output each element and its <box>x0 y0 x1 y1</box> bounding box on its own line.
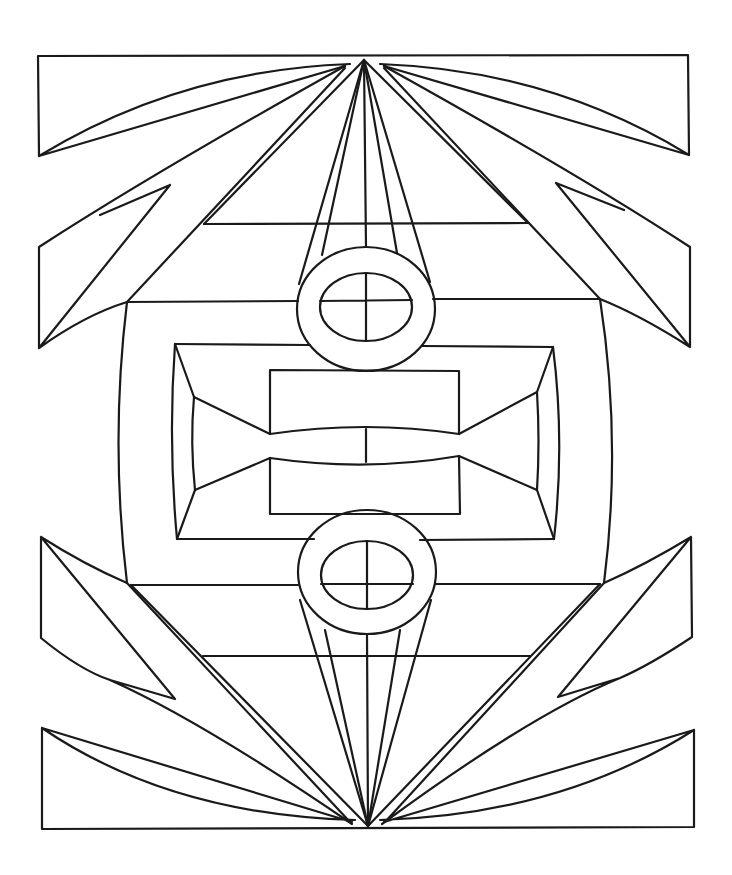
inner-rect-bottom <box>270 456 460 514</box>
frame-bottom <box>177 539 554 540</box>
bottom-ray-center <box>367 634 368 826</box>
top-left-petal <box>39 64 350 156</box>
line-art-canvas <box>0 0 732 875</box>
bowtie-right <box>459 392 537 490</box>
frame-top <box>175 344 553 347</box>
top-right-petal <box>380 64 689 155</box>
bottom-left-wing <box>41 537 352 824</box>
outer-left-side <box>119 302 128 583</box>
top-left-wing <box>39 66 345 348</box>
outer-right-side <box>600 299 612 583</box>
frame-left <box>172 344 177 539</box>
frame-inner-right <box>537 392 539 490</box>
bottom-ring <box>298 510 436 634</box>
top-ray-center <box>364 60 366 247</box>
top-ring <box>297 247 435 371</box>
bowtie-left <box>194 397 270 490</box>
top-right-wing <box>384 66 690 347</box>
inner-rect-top <box>270 370 459 434</box>
bottom-left-petal <box>42 728 355 822</box>
frame-inner-left <box>192 397 195 490</box>
bottom-ray-inner-left <box>325 630 368 826</box>
frame-right <box>553 347 559 539</box>
bottom-right-wing <box>382 537 692 824</box>
top-fan <box>38 55 690 348</box>
geometric-drawing <box>0 0 732 875</box>
top-ray-inner-left <box>322 60 364 255</box>
